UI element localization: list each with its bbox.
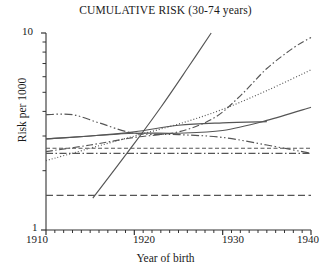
series-line-steep-rising-solid xyxy=(93,33,211,198)
y-axis-ticks xyxy=(41,33,46,230)
axis-lines xyxy=(46,33,311,230)
series-line-dotted-rising-to-6.5 xyxy=(46,70,311,161)
x-axis-ticks xyxy=(46,230,311,235)
plot-area xyxy=(0,0,331,272)
chart-figure: CUMULATIVE RISK (30-74 years) Risk per 1… xyxy=(0,0,331,272)
data-series-group xyxy=(46,33,311,198)
